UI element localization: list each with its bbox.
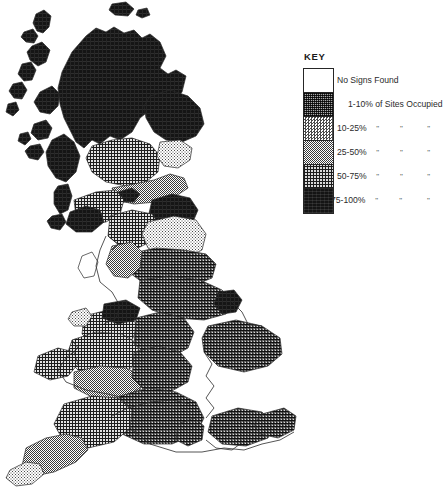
legend-title: KEY	[304, 52, 443, 62]
legend-label-75-100: 75-100%	[331, 196, 365, 205]
legend-item-75-100: 75-100% " " "	[337, 188, 443, 212]
region-central-scotland-lowlands	[86, 138, 160, 186]
legend-swatch-dots-fine	[304, 117, 333, 141]
region-inner-hebrides-jura	[18, 132, 31, 145]
legend-rows: No Signs Found 1-10% of Sites Occupied 1…	[337, 68, 443, 212]
legend-ditto-25-50-2: "	[389, 148, 414, 157]
legend-body: No Signs Found 1-10% of Sites Occupied 1…	[303, 68, 443, 212]
legend-item-50-75: 50-75% " " "	[337, 164, 443, 188]
region-outer-hebrides-tip	[6, 102, 19, 116]
legend-ditto-75-100-2: "	[388, 196, 414, 205]
region-outer-hebrides-south	[9, 82, 27, 99]
region-inner-hebrides-mull	[31, 120, 52, 140]
legend-label-1-10: 1-10% of Sites Occupied	[348, 100, 443, 109]
map-legend: KEY No Signs Found 1-10% of Sites Occupi…	[303, 52, 443, 212]
legend-ditto-75-100-3: "	[414, 196, 443, 205]
legend-swatch-solid-black	[304, 189, 333, 213]
region-east-anglia	[202, 320, 282, 372]
legend-ditto-25-50-3: "	[414, 148, 443, 157]
legend-item-1-10: 1-10% of Sites Occupied	[337, 92, 443, 116]
legend-item-25-50: 25-50% " " "	[337, 140, 443, 164]
region-grampian-northeast-scotland	[144, 90, 204, 142]
region-isle-of-skye	[34, 86, 60, 114]
region-isle-of-man	[78, 252, 98, 278]
region-north-isles-speck-2	[136, 8, 150, 18]
legend-swatch-column	[303, 68, 334, 214]
coastline-thames-estuary	[204, 352, 214, 418]
legend-ditto-10-25-2: "	[389, 124, 414, 133]
region-orkney-shetland-isles	[33, 10, 51, 33]
legend-ditto-50-75-2: "	[389, 172, 414, 181]
region-north-wales-dark-cap	[102, 300, 140, 324]
legend-label-25-50: 25-50%	[337, 148, 367, 157]
region-arran	[47, 214, 66, 230]
legend-label-50-75: 50-75%	[337, 172, 367, 181]
region-orkney-isles-small	[21, 29, 38, 43]
region-argyll-inner-hebrides	[46, 134, 80, 182]
uk-map	[0, 0, 300, 495]
legend-ditto-10-25-1: "	[367, 124, 389, 133]
legend-item-no-signs: No Signs Found	[337, 68, 443, 92]
region-galloway-dark	[66, 206, 104, 232]
region-kintyre	[54, 184, 72, 214]
legend-ditto-50-75-3: "	[414, 172, 443, 181]
region-cornwall-tip	[6, 462, 44, 486]
region-fife-lothian	[157, 140, 192, 168]
legend-label-no-signs: No Signs Found	[337, 76, 399, 85]
legend-ditto-10-25-3: "	[414, 124, 443, 133]
legend-swatch-stipple-coarse	[304, 93, 333, 117]
legend-ditto-50-75-1: "	[367, 172, 389, 181]
region-north-isles-speck	[109, 2, 134, 16]
region-pembrokeshire-west-wales	[34, 348, 78, 380]
legend-item-10-25: 10-25% " " "	[337, 116, 443, 140]
legend-ditto-25-50-1: "	[367, 148, 389, 157]
region-inner-hebrides-islay	[25, 144, 44, 160]
legend-swatch-no-signs	[304, 69, 333, 93]
uk-map-svg	[0, 0, 300, 495]
legend-ditto-75-100-1: "	[365, 196, 387, 205]
legend-label-10-25: 10-25%	[337, 124, 367, 133]
region-outer-hebrides-mid	[18, 62, 36, 81]
legend-swatch-crosshatch	[304, 165, 333, 189]
legend-swatch-checker-medium	[304, 141, 333, 165]
distribution-map-figure: KEY No Signs Found 1-10% of Sites Occupi…	[0, 0, 443, 495]
